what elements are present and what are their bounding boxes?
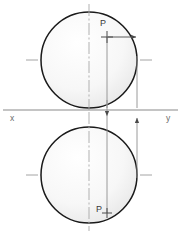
axis-label-y: y <box>166 113 171 123</box>
point-p-top-label: P <box>100 18 106 28</box>
top-view-group <box>26 4 152 110</box>
bottom-view-group <box>26 112 152 231</box>
axis-label-x: x <box>10 113 15 123</box>
technical-drawing-canvas: x y <box>0 0 181 234</box>
point-p-bottom-label: P <box>96 204 102 214</box>
reference-line-group: x y <box>3 110 178 123</box>
orthographic-projection-drawing: x y <box>0 0 181 234</box>
